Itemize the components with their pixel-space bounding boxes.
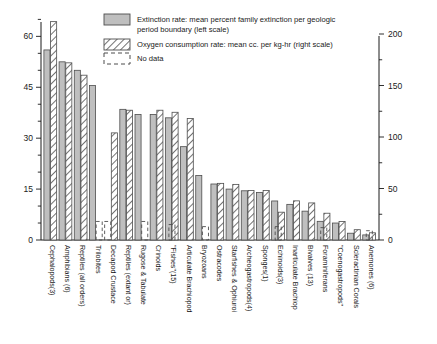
x-axis-category-label: Scleractinian Corals: [352, 245, 360, 309]
bar-extinction: [317, 221, 323, 240]
bar-oxygen: [218, 183, 224, 240]
bar-oxygen: [157, 110, 163, 240]
y-left-tick-label: 0: [28, 235, 33, 245]
bar-extinction: [256, 192, 262, 240]
x-axis-category-label: Inarticulate Brachiop: [291, 245, 299, 310]
bar-extinction: [150, 114, 156, 240]
bar-extinction: [59, 62, 65, 240]
bar-extinction: [181, 147, 187, 240]
bar-extinction: [165, 118, 171, 240]
bar-extinction: [74, 70, 80, 240]
x-axis-category-label: Bivalves (13): [306, 245, 314, 286]
x-axis-category-label: Echinoids(3): [276, 245, 284, 284]
bar-oxygen: [339, 221, 345, 240]
y-left-tick-label: 30: [24, 133, 34, 143]
x-axis-category-label: Rugose & Tabulate: [139, 245, 147, 305]
x-axis-category-label: Articulate Brachiopod: [185, 245, 193, 312]
x-axis-category-label: Archeogastropods(4): [245, 245, 253, 311]
x-axis-category-label: Amphibians (6): [63, 245, 71, 293]
bar-extinction: [272, 201, 278, 240]
bar-oxygen: [233, 184, 239, 240]
x-axis-category-label: Ostracodes: [215, 245, 223, 282]
bar-oxygen: [248, 191, 254, 240]
y-right-tick-label: 50: [388, 184, 398, 194]
bar-extinction: [241, 191, 247, 240]
bar-extinction: [44, 50, 50, 240]
bar-oxygen: [187, 118, 193, 240]
bar-extinction: [196, 176, 202, 240]
legend-label-extinction: Extinction rate: mean percent family ext…: [137, 15, 336, 24]
y-right-tick-label: 150: [388, 81, 402, 91]
bar-oxygen: [172, 112, 178, 240]
x-axis-category-label: Crinoids: [154, 245, 162, 271]
bar-oxygen: [66, 63, 72, 240]
x-axis-category-label: Reptiles (all orders): [78, 245, 86, 307]
bar-oxygen: [309, 203, 315, 240]
y-right-tick-label: 200: [388, 29, 402, 39]
y-left-tick-label: 45: [24, 82, 34, 92]
bar-extinction: [287, 204, 293, 240]
bar-extinction: [226, 189, 232, 240]
x-axis-category-label: Foraminiferans: [321, 245, 329, 293]
bar-oxygen: [354, 230, 360, 240]
x-axis-category-label: Reptiles (extant or): [124, 245, 132, 305]
legend-label-extinction: period boundary (left scale): [137, 25, 229, 34]
bar-extinction: [302, 211, 308, 240]
bar-extinction: [363, 235, 369, 240]
x-axis-category-label: Bryozoans: [200, 245, 208, 279]
bar-oxygen: [111, 133, 117, 240]
x-axis-category-label: Trilobites: [94, 245, 102, 274]
bar-oxygen: [127, 110, 133, 240]
chart-root: Extinction rate: mean percent family ext…: [0, 0, 437, 344]
y-left-tick-label: 15: [24, 184, 34, 194]
bar-oxygen: [263, 191, 269, 240]
x-axis-category-label: "Fishes"(15): [169, 245, 177, 284]
x-axis-category-label: Decapod Crustace: [109, 245, 117, 304]
bar-extinction: [211, 184, 217, 240]
bar-extinction: [348, 233, 354, 240]
bar-extinction: [135, 114, 141, 240]
y-right-tick-label: 100: [388, 132, 402, 142]
legend-swatch-extinction: [104, 14, 130, 25]
bar-oxygen: [51, 22, 57, 240]
legend-label-oxygen: Oxygen consumption rate: mean cc. per kg…: [137, 40, 333, 49]
x-axis-category-label: "Coenogastropods": [336, 245, 344, 307]
legend-swatch-oxygen: [104, 39, 130, 50]
x-axis-category-label: Anemones (6): [367, 245, 375, 290]
bar-extinction: [332, 223, 338, 240]
bar-extinction: [120, 109, 126, 240]
x-axis-category-label: Starfishes & Ophiuroi: [230, 245, 238, 312]
x-axis-category-label: Cephalopods(3): [48, 245, 56, 295]
legend-label-nodata: No data: [137, 54, 164, 63]
bar-oxygen: [294, 201, 300, 240]
bar-extinction: [89, 86, 95, 240]
x-axis-category-label: Sponges(1): [261, 245, 269, 282]
y-right-tick-label: 0: [388, 235, 393, 245]
y-left-tick-label: 60: [24, 31, 34, 41]
bar-oxygen: [81, 75, 87, 240]
